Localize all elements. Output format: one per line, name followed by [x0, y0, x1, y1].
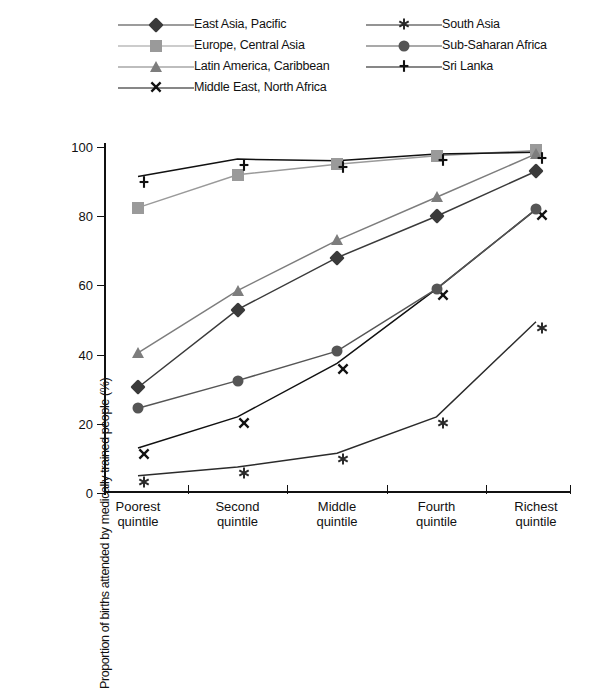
legend-label: Europe, Central Asia	[194, 39, 305, 52]
legend-column-left: East Asia, PacificEurope, Central AsiaLa…	[118, 14, 330, 98]
legend-swatch	[366, 15, 442, 35]
x-tick-label-line2: quintile	[116, 514, 161, 529]
legend-swatch	[366, 57, 442, 77]
x-tick-label-line1: Poorest	[116, 499, 161, 514]
legend-item[interactable]: Sri Lanka	[366, 56, 547, 77]
legend-label: Sri Lanka	[442, 60, 493, 73]
data-point[interactable]	[531, 204, 542, 215]
x-tick-label-line2: quintile	[416, 514, 457, 529]
y-tick-label: 100	[71, 140, 93, 155]
legend-label: East Asia, Pacific	[194, 18, 286, 31]
x-tick-label-line1: Middle	[316, 499, 357, 514]
y-tick	[97, 285, 104, 286]
y-tick-label: 40	[79, 347, 93, 362]
legend-swatch	[118, 36, 194, 56]
data-point[interactable]	[132, 202, 144, 214]
legend-label: South Asia	[442, 18, 500, 31]
plus-marker-icon	[398, 58, 410, 76]
x-tick-label-line1: Second	[215, 499, 259, 514]
diamond-marker-icon	[148, 17, 164, 33]
circle-marker-icon	[399, 40, 410, 51]
y-tick-label: 0	[86, 486, 93, 501]
data-point[interactable]	[431, 283, 442, 294]
y-tick-label: 60	[79, 278, 93, 293]
series-lines	[104, 147, 570, 493]
data-series-layer	[104, 147, 570, 493]
x-tick-label-line2: quintile	[215, 514, 259, 529]
legend-item[interactable]: Middle East, North Africa	[118, 77, 330, 98]
x-tick-label: Poorestquintile	[116, 499, 161, 529]
y-tick	[97, 355, 104, 356]
data-point[interactable]	[232, 375, 243, 386]
x-tick-label-line2: quintile	[514, 514, 557, 529]
plot-area: Proportion of births attended by medical…	[104, 147, 570, 493]
y-tick-label: 20	[79, 416, 93, 431]
legend-label: Sub-Saharan Africa	[442, 39, 547, 52]
legend-label: Middle East, North Africa	[194, 81, 327, 94]
x-tick	[570, 485, 571, 494]
legend-item[interactable]: Europe, Central Asia	[118, 35, 330, 56]
y-tick	[97, 424, 104, 425]
y-tick	[97, 493, 104, 494]
x-tick-label: Richestquintile	[514, 499, 557, 529]
y-tick-label: 80	[79, 209, 93, 224]
data-point[interactable]	[232, 285, 244, 296]
x-tick-label: Middlequintile	[316, 499, 357, 529]
legend-item[interactable]: Latin America, Caribbean	[118, 56, 330, 77]
legend-item[interactable]: South Asia	[366, 14, 547, 35]
x-tick-label: Secondquintile	[215, 499, 259, 529]
legend-swatch	[366, 36, 442, 56]
x-tick-label-line2: quintile	[316, 514, 357, 529]
x-tick-label-line1: Fourth	[416, 499, 457, 514]
legend-column-right: South AsiaSub-Saharan AfricaSri Lanka	[366, 14, 547, 77]
x-marker-icon	[150, 79, 162, 97]
chart-legend: East Asia, PacificEurope, Central AsiaLa…	[118, 14, 588, 106]
legend-swatch	[118, 78, 194, 98]
data-point[interactable]	[332, 346, 343, 357]
triangle-marker-icon	[150, 60, 162, 71]
legend-item[interactable]: East Asia, Pacific	[118, 14, 330, 35]
y-tick	[97, 216, 104, 217]
legend-swatch	[118, 57, 194, 77]
star-marker-icon	[398, 16, 410, 34]
x-tick-label-line1: Richest	[514, 499, 557, 514]
data-point[interactable]	[132, 347, 144, 358]
y-tick	[97, 147, 104, 148]
data-point[interactable]	[133, 403, 144, 414]
legend-swatch	[118, 15, 194, 35]
square-marker-icon	[150, 40, 162, 52]
data-point[interactable]	[331, 234, 343, 245]
legend-label: Latin America, Caribbean	[194, 60, 330, 73]
x-tick-label: Fourthquintile	[416, 499, 457, 529]
data-point[interactable]	[431, 191, 443, 202]
legend-item[interactable]: Sub-Saharan Africa	[366, 35, 547, 56]
